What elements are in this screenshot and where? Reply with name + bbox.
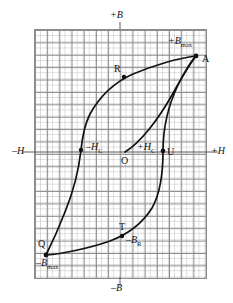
- point-label-br-negative: –BR: [126, 235, 141, 248]
- axis-label-bottom: –B: [111, 283, 122, 293]
- point-label-u: U: [167, 147, 174, 157]
- point-label-hc-positive: +HC: [137, 142, 155, 155]
- point-a-dot: [194, 54, 199, 59]
- point-u-dot: [161, 149, 166, 154]
- axis-label-left: –H: [12, 146, 24, 156]
- point-t-dot: [120, 234, 124, 238]
- b-max-negative-text: –B: [36, 257, 47, 268]
- point-r-dot: [122, 75, 126, 79]
- hc-negative-subscript: C: [98, 147, 102, 154]
- hc-positive-text: +H: [137, 141, 151, 152]
- axis-label-top: +B: [110, 10, 123, 20]
- point-label-hc-negative: –HC: [86, 142, 103, 155]
- point-label-q: Q: [38, 239, 45, 249]
- hc-negative-text: –H: [86, 141, 98, 152]
- point-label-b-max-negative: –Bmax: [36, 258, 58, 271]
- point-label-a: A: [202, 54, 209, 64]
- point-label-b-max-positive: +Bmax: [168, 36, 192, 49]
- b-max-positive-text: +B: [168, 35, 181, 46]
- br-negative-subscript: R: [137, 240, 141, 247]
- axis-label-right: +H: [211, 146, 225, 156]
- hysteresis-figure: +B –B –H +H A +Bmax R –HC O +HC U Q T –B…: [0, 0, 233, 303]
- b-max-positive-subscript: max: [181, 41, 192, 48]
- point-label-t: T: [119, 222, 125, 232]
- br-negative-text: –B: [126, 234, 137, 245]
- curve-layer: [0, 0, 233, 303]
- point-label-origin: O: [121, 156, 128, 166]
- point-label-r: R: [114, 64, 121, 74]
- b-max-negative-subscript: max: [47, 263, 58, 270]
- hc-positive-subscript: C: [151, 147, 155, 154]
- point-hc-neg-dot: [79, 148, 83, 152]
